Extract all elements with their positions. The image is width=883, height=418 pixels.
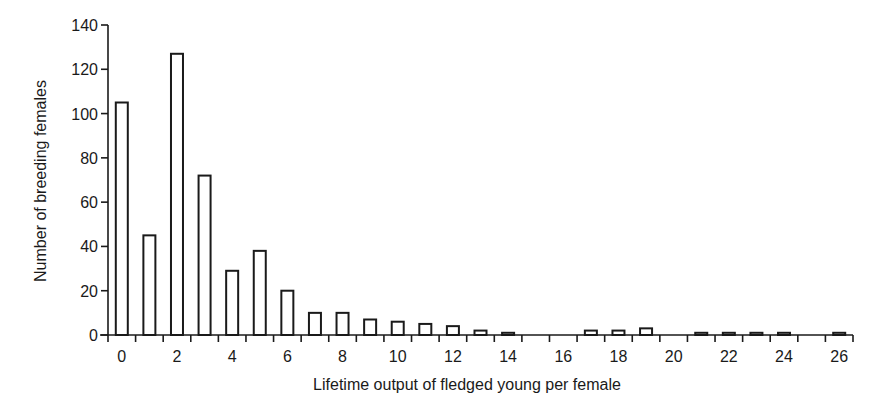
y-tick-label: 20: [80, 283, 98, 300]
x-tick-label: 0: [117, 348, 126, 365]
bar: [199, 176, 211, 335]
bar: [392, 322, 404, 335]
bar: [143, 235, 155, 335]
x-axis-title: Lifetime output of fledged young per fem…: [313, 376, 621, 393]
bars-group: [116, 54, 845, 335]
bar: [254, 251, 266, 335]
histogram-chart: 020406080100120140 024681012141618202224…: [0, 0, 883, 418]
x-tick-label: 16: [554, 348, 572, 365]
bar: [226, 271, 238, 335]
bar: [419, 324, 431, 335]
y-tick-label: 40: [80, 238, 98, 255]
y-axis-title: Number of breeding females: [32, 80, 49, 282]
y-tick-label: 120: [71, 61, 98, 78]
x-tick-label: 26: [830, 348, 848, 365]
x-tick-label: 2: [173, 348, 182, 365]
x-tick-label: 20: [665, 348, 683, 365]
bar: [171, 54, 183, 335]
bar: [447, 326, 459, 335]
bar: [116, 103, 128, 336]
bar: [281, 291, 293, 335]
x-tick-label: 18: [610, 348, 628, 365]
x-axis: 02468101214161820222426: [100, 335, 853, 365]
bar: [337, 313, 349, 335]
x-tick-label: 4: [228, 348, 237, 365]
y-tick-label: 60: [80, 194, 98, 211]
x-tick-label: 14: [499, 348, 517, 365]
x-tick-label: 24: [775, 348, 793, 365]
bar: [640, 328, 652, 335]
bar: [309, 313, 321, 335]
x-tick-label: 6: [283, 348, 292, 365]
y-axis: 020406080100120140: [71, 17, 108, 344]
x-tick-label: 12: [444, 348, 462, 365]
bar: [364, 320, 376, 336]
x-tick-label: 10: [389, 348, 407, 365]
y-tick-label: 100: [71, 106, 98, 123]
y-tick-label: 140: [71, 17, 98, 34]
chart-canvas: 020406080100120140 024681012141618202224…: [0, 0, 883, 418]
y-tick-label: 80: [80, 150, 98, 167]
x-tick-label: 22: [720, 348, 738, 365]
y-tick-label: 0: [89, 327, 98, 344]
x-tick-label: 8: [338, 348, 347, 365]
